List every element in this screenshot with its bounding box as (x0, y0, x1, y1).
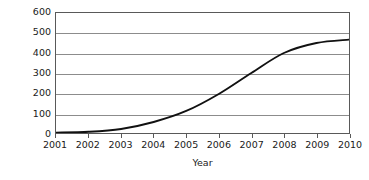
y-tick-label: 100 (24, 109, 51, 119)
x-tick-mark (350, 134, 351, 138)
y-tick-label: 200 (24, 88, 51, 98)
data-series-line (56, 13, 349, 133)
x-axis-tick-marks (55, 134, 350, 138)
x-axis-title: Year (55, 157, 350, 169)
x-tick-mark (317, 134, 318, 138)
fairtrade-towns-line-chart: Number of Fairtrade Towns 01002003004005… (0, 0, 369, 180)
x-tick-mark (121, 134, 122, 138)
y-tick-label: 600 (24, 7, 51, 17)
y-tick-label: 300 (24, 68, 51, 78)
x-tick-mark (284, 134, 285, 138)
x-tick-mark (252, 134, 253, 138)
x-tick-mark (88, 134, 89, 138)
x-tick-mark (219, 134, 220, 138)
x-tick-label: 2010 (330, 139, 369, 151)
y-axis-tick-labels: 0100200300400500600 (24, 7, 51, 135)
y-tick-label: 500 (24, 27, 51, 37)
plot-area (55, 12, 350, 134)
y-tick-label: 0 (24, 129, 51, 139)
x-tick-mark (55, 134, 56, 138)
x-tick-mark (186, 134, 187, 138)
y-tick-label: 400 (24, 48, 51, 58)
x-tick-mark (153, 134, 154, 138)
x-axis-tick-labels: 2001200220032004200520062007200820092010 (55, 139, 350, 152)
